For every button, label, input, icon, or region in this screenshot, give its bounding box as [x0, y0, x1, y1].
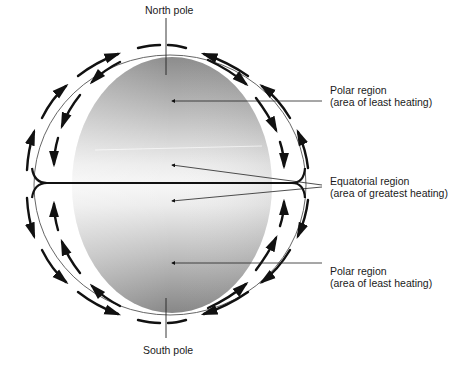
equatorial-line2: (area of greatest heating) — [330, 187, 448, 199]
south-pole-text: South pole — [143, 344, 193, 356]
south-pole-label: South pole — [143, 344, 193, 356]
circulation-diagram: North pole Polar region (area of least h… — [0, 0, 453, 367]
north-pole-text: North pole — [145, 4, 193, 16]
north-pole-label: North pole — [145, 4, 193, 16]
polar-bottom-line2: (area of least heating) — [330, 277, 432, 289]
polar-top-line2: (area of least heating) — [330, 96, 432, 108]
polar-region-top-label: Polar region (area of least heating) — [330, 84, 432, 108]
polar-bottom-line1: Polar region — [330, 265, 432, 277]
polar-top-line1: Polar region — [330, 84, 432, 96]
equatorial-line1: Equatorial region — [330, 175, 448, 187]
polar-region-bottom-label: Polar region (area of least heating) — [330, 265, 432, 289]
earth-globe — [72, 57, 272, 313]
equatorial-region-label: Equatorial region (area of greatest heat… — [330, 175, 448, 199]
